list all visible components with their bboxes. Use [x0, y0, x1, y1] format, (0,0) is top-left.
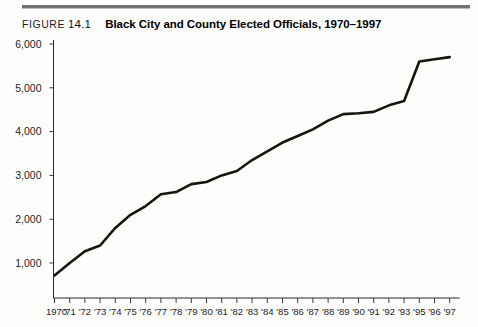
- figure-caption-title: Black City and County Elected Officials,…: [105, 18, 381, 30]
- x-axis-tick-label: '90: [352, 306, 364, 317]
- chart-plot-area: 1,0002,0003,0004,0005,0006,000 1970'71'7…: [0, 36, 478, 327]
- x-axis-tick-label: '87: [307, 306, 319, 317]
- y-axis-tick-label: 6,000: [15, 38, 41, 50]
- x-axis-tick-label: '83: [246, 306, 258, 317]
- x-axis-tick-marks: [55, 298, 450, 303]
- y-axis-tick-label: 5,000: [15, 82, 41, 94]
- x-axis-tick-label: '86: [292, 306, 304, 317]
- y-axis-tick-label: 1,000: [15, 257, 41, 269]
- figure-caption-number: 14.1: [68, 18, 91, 30]
- x-axis-tick-label: '89: [337, 306, 349, 317]
- x-axis-tick-label: '75: [124, 306, 136, 317]
- x-axis-tick-label: '92: [383, 306, 395, 317]
- y-axis-tick-label: 2,000: [15, 213, 41, 225]
- x-axis-tick-label: '91: [368, 306, 380, 317]
- x-axis-tick-label: '96: [428, 306, 440, 317]
- x-axis-tick-label: '88: [322, 306, 334, 317]
- y-axis-tick-marks: [50, 44, 54, 263]
- x-axis-tick-label: '76: [140, 306, 152, 317]
- x-axis-tick-label: '95: [413, 306, 425, 317]
- series-line-black-elected-officials: [55, 57, 450, 275]
- x-axis-tick-label: '74: [109, 306, 121, 317]
- figure-caption-label: FIGURE: [22, 18, 65, 30]
- x-axis-tick-label: '79: [185, 306, 197, 317]
- x-axis-tick-label: '93: [398, 306, 410, 317]
- x-axis-tick-label: '72: [79, 306, 91, 317]
- y-axis-tick-labels: 1,0002,0003,0004,0005,0006,000: [15, 38, 41, 269]
- x-axis-tick-label: '81: [216, 306, 228, 317]
- x-axis-tick-label: '80: [200, 306, 212, 317]
- x-axis-tick-label: '82: [231, 306, 243, 317]
- x-axis-tick-label: '97: [444, 306, 456, 317]
- figure-caption: FIGURE14.1Black City and County Elected …: [22, 14, 462, 31]
- x-axis-tick-labels: 1970'71'72'73'74'75'76'77'78'79'80'81'82…: [46, 306, 456, 317]
- x-axis-tick-label: '77: [155, 306, 167, 317]
- line-chart: 1,0002,0003,0004,0005,0006,000 1970'71'7…: [0, 36, 478, 327]
- y-axis-tick-label: 3,000: [15, 169, 41, 181]
- x-axis-tick-label: '78: [170, 306, 182, 317]
- x-axis-tick-label: '85: [276, 306, 288, 317]
- x-axis-tick-label: '71: [64, 306, 76, 317]
- y-axis-tick-label: 4,000: [15, 125, 41, 137]
- x-axis-tick-label: '84: [261, 306, 273, 317]
- figure-container: FIGURE14.1Black City and County Elected …: [0, 0, 478, 327]
- header-rule-shadow: [22, 8, 470, 9]
- x-axis-tick-label: '73: [94, 306, 106, 317]
